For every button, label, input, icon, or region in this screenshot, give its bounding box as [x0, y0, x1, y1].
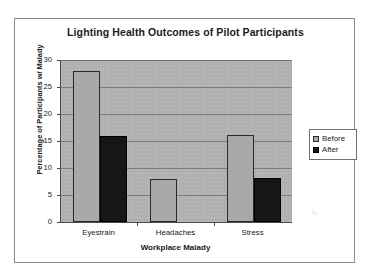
legend-swatch-after-icon — [313, 147, 319, 153]
bar-stress-before — [227, 135, 254, 222]
chart-legend: Before After — [309, 129, 357, 160]
y-tick-label: 15 — [22, 136, 52, 145]
legend-swatch-before-icon — [313, 136, 319, 142]
scan-artifact-1: ∿ — [311, 209, 317, 217]
bar-stress-after — [254, 178, 281, 222]
y-tick-label: 5 — [22, 190, 52, 199]
y-tick-mark — [57, 87, 60, 88]
x-tick-mark — [214, 223, 215, 226]
y-tick-mark — [57, 168, 60, 169]
x-tick-mark — [137, 223, 138, 226]
bar-eyestrain-after — [100, 136, 127, 222]
y-tick-mark — [57, 60, 60, 61]
y-tick-label: 25 — [22, 82, 52, 91]
chart-title: Lighting Health Outcomes of Pilot Partic… — [15, 26, 356, 38]
x-category-label: Stress — [214, 228, 291, 237]
bar-eyestrain-before — [73, 71, 100, 222]
x-category-label: Eyestrain — [60, 228, 137, 237]
gridline — [61, 60, 292, 61]
legend-label-after: After — [322, 145, 338, 154]
y-tick-mark — [57, 195, 60, 196]
chart-container: Lighting Health Outcomes of Pilot Partic… — [14, 18, 355, 263]
y-tick-label: 30 — [22, 55, 52, 64]
plot-area — [60, 60, 292, 223]
y-tick-label: 0 — [22, 217, 52, 226]
bar-headaches-before — [150, 179, 177, 222]
y-tick-mark — [57, 222, 60, 223]
y-tick-mark — [57, 141, 60, 142]
y-tick-mark — [57, 114, 60, 115]
legend-label-before: Before — [322, 134, 345, 143]
x-category-label: Headaches — [137, 228, 214, 237]
legend-item-after[interactable]: After — [313, 145, 353, 154]
y-tick-label: 10 — [22, 163, 52, 172]
x-axis-title: Workplace Malady — [60, 243, 291, 252]
scan-artifact-2: · — [337, 240, 339, 247]
legend-item-before[interactable]: Before — [313, 134, 353, 143]
y-tick-label: 20 — [22, 109, 52, 118]
